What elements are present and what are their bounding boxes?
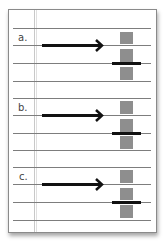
gray-block — [120, 67, 133, 80]
rule-line — [13, 167, 151, 168]
black-bar — [112, 62, 141, 65]
black-bar — [112, 132, 141, 135]
gray-block — [120, 188, 133, 200]
rule-line — [13, 98, 151, 99]
notebook-paper: a. b. c. — [8, 9, 157, 233]
rule-line — [13, 28, 151, 29]
section-label-c: c. — [19, 171, 28, 182]
black-bar — [112, 201, 141, 204]
gray-block — [120, 170, 133, 183]
rule-line — [13, 220, 151, 221]
arrow-right-icon — [42, 114, 100, 117]
gray-block — [120, 32, 133, 44]
margin-line-secondary — [36, 10, 37, 232]
arrow-right-icon — [42, 183, 100, 186]
gray-block — [120, 136, 133, 149]
arrow-right-icon — [42, 44, 100, 47]
rule-line — [13, 81, 151, 82]
section-label-b: b. — [18, 102, 28, 113]
gray-block — [120, 49, 133, 62]
margin-line — [34, 10, 35, 232]
gray-block — [120, 119, 133, 132]
section-label-a: a. — [18, 32, 27, 43]
gray-block — [120, 101, 133, 114]
gray-block — [120, 205, 133, 218]
rule-line — [13, 150, 151, 151]
